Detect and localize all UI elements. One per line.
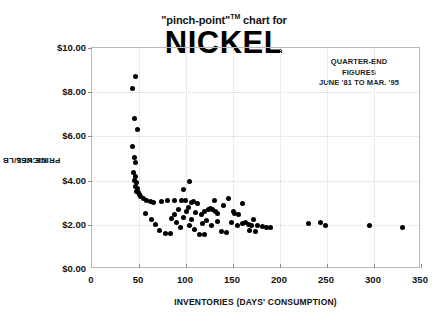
x-axis-tick-mark: [374, 264, 375, 268]
y-axis-title: NICKEL PRICE US$/LB: [14, 120, 48, 200]
data-point: [132, 116, 137, 121]
x-axis-tick-mark: [186, 264, 187, 268]
x-axis-tick-label: 200: [259, 274, 299, 285]
data-point: [268, 225, 273, 230]
data-point: [221, 203, 226, 208]
y-axis-tick-label: $8.00: [32, 86, 86, 97]
data-point: [159, 199, 164, 204]
plot-area: [91, 47, 420, 268]
data-point: [153, 222, 158, 227]
x-axis-tick-mark: [233, 264, 234, 268]
data-point: [229, 220, 234, 225]
x-axis-tick-mark: [327, 264, 328, 268]
data-point: [323, 223, 328, 228]
data-point: [202, 232, 207, 237]
data-point: [186, 205, 191, 210]
data-point: [367, 223, 372, 228]
y-axis-tick-label: $2.00: [32, 218, 86, 229]
data-point: [181, 187, 186, 192]
y-axis-tick-mark: [88, 181, 92, 182]
data-point: [176, 207, 181, 212]
x-axis-tick-label: 150: [212, 274, 252, 285]
x-axis-tick-mark: [280, 264, 281, 268]
data-point: [168, 231, 173, 236]
chart-title-prefix: "pinch-point": [161, 14, 230, 26]
data-point: [197, 232, 202, 237]
y-axis-tick-mark: [88, 92, 92, 93]
x-axis-tick-label: 300: [353, 274, 393, 285]
data-point: [195, 201, 200, 206]
y-axis-tick-label: $10.00: [32, 42, 86, 53]
data-point: [157, 228, 162, 233]
data-point: [143, 211, 148, 216]
nickel-pinch-point-chart: "pinch-point"TM chart for NICKEL QUARTER…: [0, 0, 448, 328]
data-point: [215, 219, 220, 224]
data-point: [193, 210, 198, 215]
data-point: [209, 223, 214, 228]
y-axis-tick-mark: [88, 225, 92, 226]
y-axis-tick-mark: [88, 48, 92, 49]
x-axis-tick-label: 0: [71, 274, 111, 285]
data-point: [178, 225, 183, 230]
trademark-mark: TM: [230, 13, 240, 20]
data-point: [165, 198, 170, 203]
x-axis-title: INVENTORIES (DAYS' CONSUMPTION): [91, 297, 420, 307]
data-point: [224, 230, 229, 235]
data-point: [130, 86, 135, 91]
data-point: [187, 223, 192, 228]
data-point: [135, 127, 140, 132]
data-point: [400, 225, 405, 230]
data-point: [183, 198, 188, 203]
x-axis-tick-mark: [139, 264, 140, 268]
data-point: [192, 227, 197, 232]
data-point: [189, 217, 194, 222]
y-axis-title-line-2: PRICE US$/LB: [2, 155, 60, 166]
data-point: [240, 201, 245, 206]
data-point: [247, 228, 252, 233]
scatter-points: [92, 48, 419, 267]
x-axis-tick-labels: 050100150200250300350: [91, 274, 420, 288]
data-point: [236, 212, 241, 217]
data-point: [133, 74, 138, 79]
y-axis-tick-mark: [88, 136, 92, 137]
data-point: [253, 229, 258, 234]
data-point: [212, 198, 217, 203]
data-point: [172, 198, 177, 203]
data-point: [184, 209, 189, 214]
data-point: [181, 215, 186, 220]
data-point: [226, 196, 231, 201]
x-axis-tick-label: 100: [165, 274, 205, 285]
data-point: [151, 200, 156, 205]
data-point: [133, 160, 138, 165]
chart-subtitle-line: "pinch-point"TM chart for: [0, 13, 448, 26]
y-axis-tick-label: $0.00: [32, 263, 86, 274]
data-point: [130, 144, 135, 149]
chart-title-suffix: chart for: [240, 14, 287, 26]
x-axis-tick-label: 250: [306, 274, 346, 285]
data-point: [215, 211, 220, 216]
x-axis-tick-label: 350: [400, 274, 440, 285]
data-point: [306, 221, 311, 226]
data-point: [251, 217, 256, 222]
data-point: [200, 221, 205, 226]
data-point: [187, 179, 192, 184]
x-axis-tick-mark: [421, 264, 422, 268]
x-axis-tick-label: 50: [118, 274, 158, 285]
